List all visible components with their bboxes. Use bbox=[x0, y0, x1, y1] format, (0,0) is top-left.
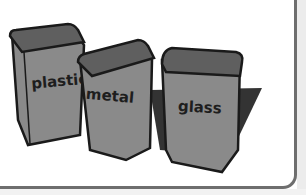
bin-glass: glass bbox=[162, 48, 242, 172]
bin-label-glass: glass bbox=[177, 97, 222, 117]
bin-metal: metal bbox=[78, 40, 154, 160]
recycling-bins-illustration: plastic metal glass bbox=[0, 0, 306, 195]
bin-plastic: plastic bbox=[10, 24, 88, 145]
